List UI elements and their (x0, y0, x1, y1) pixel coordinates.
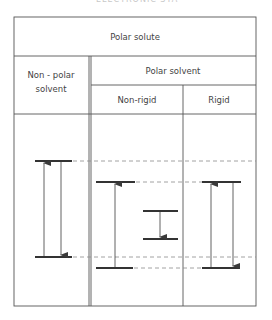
header-non-rigid: Non-rigid (117, 95, 156, 105)
header-rigid: Rigid (208, 95, 229, 105)
energy-levels (35, 161, 241, 268)
dashed-reference-lines (73, 161, 256, 268)
header-polar-solute: Polar solute (110, 32, 160, 42)
header-polar-solvent: Polar solvent (146, 66, 201, 76)
solvent-effect-diagram: Polar solute Non - polar solvent Polar s… (0, 0, 272, 320)
header-nonpolar-line2: solvent (36, 84, 68, 94)
transition-arrows (44, 162, 233, 267)
header-nonpolar-line1: Non - polar (27, 70, 75, 80)
